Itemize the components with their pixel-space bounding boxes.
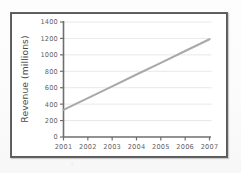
y-tick-label: 0	[54, 133, 58, 141]
y-tick-label: 600	[45, 84, 58, 92]
gridlines	[64, 22, 212, 121]
x-tick-label: 2007	[201, 143, 219, 151]
y-axis-title: Revenue (millions)	[19, 35, 30, 122]
x-tick-label: 2002	[79, 143, 97, 151]
x-tick-label: 2006	[176, 143, 194, 151]
x-tick-label: 2005	[152, 143, 170, 151]
x-axis-ticks: 2001200220032004200520062007	[55, 137, 219, 151]
y-tick-label: 1000	[40, 51, 58, 59]
y-tick-label: 1200	[40, 35, 58, 43]
x-tick-label: 2003	[103, 143, 121, 151]
y-tick-label: 1400	[40, 18, 58, 26]
revenue-trend-line	[64, 39, 210, 110]
y-tick-label: 800	[45, 68, 58, 76]
x-tick-label: 2004	[128, 143, 146, 151]
y-axis-ticks: 1400120010008006004002000	[40, 18, 63, 141]
x-tick-label: 2001	[55, 143, 73, 151]
line-chart: 1400120010008006004002000 20012002200320…	[0, 0, 241, 173]
y-tick-label: 200	[45, 117, 58, 125]
y-tick-label: 400	[45, 101, 58, 109]
